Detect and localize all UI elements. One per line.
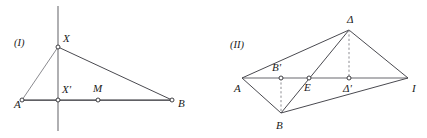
segment-XB xyxy=(58,47,172,100)
point-label-Dprime: Δ' xyxy=(342,82,352,94)
segment-Delta-Gamma xyxy=(349,30,408,78)
segment-A-Delta xyxy=(242,30,349,78)
point-label-A: A xyxy=(13,98,21,110)
figure-two-caption: (II) xyxy=(230,39,244,51)
point-label-A: A xyxy=(233,82,241,94)
point-label-B: B xyxy=(178,97,185,109)
point-marker-B xyxy=(170,98,174,102)
segment-AX xyxy=(22,47,58,100)
geometry-canvas: AXX'MB(I) AB'EΔ'ΙΔB(II) xyxy=(0,0,427,138)
point-label-Delta: Δ xyxy=(346,13,353,25)
point-label-M: M xyxy=(92,82,103,94)
figure-one-caption: (I) xyxy=(14,37,25,49)
geometry-figure-sheet: AXX'MB(I) AB'EΔ'ΙΔB(II) xyxy=(0,0,427,138)
point-marker-Xp xyxy=(56,98,60,102)
figure-two-group: AB'EΔ'ΙΔB(II) xyxy=(230,13,417,131)
point-marker-Dprime xyxy=(347,76,351,80)
point-marker-M xyxy=(96,98,100,102)
point-marker-X xyxy=(56,45,60,49)
point-marker-Bprime xyxy=(279,76,283,80)
segment-B-Delta xyxy=(281,30,349,113)
segment-A-B xyxy=(242,78,281,113)
point-label-Gamma: Ι xyxy=(411,82,417,94)
point-label-Xp: X' xyxy=(61,83,72,95)
point-label-B: B xyxy=(276,119,283,131)
point-label-X: X xyxy=(62,32,71,44)
point-label-E: E xyxy=(303,81,311,93)
figure-one-group: AXX'MB(I) xyxy=(13,6,185,131)
point-marker-E xyxy=(307,76,311,80)
point-label-Bprime: B' xyxy=(272,61,282,73)
